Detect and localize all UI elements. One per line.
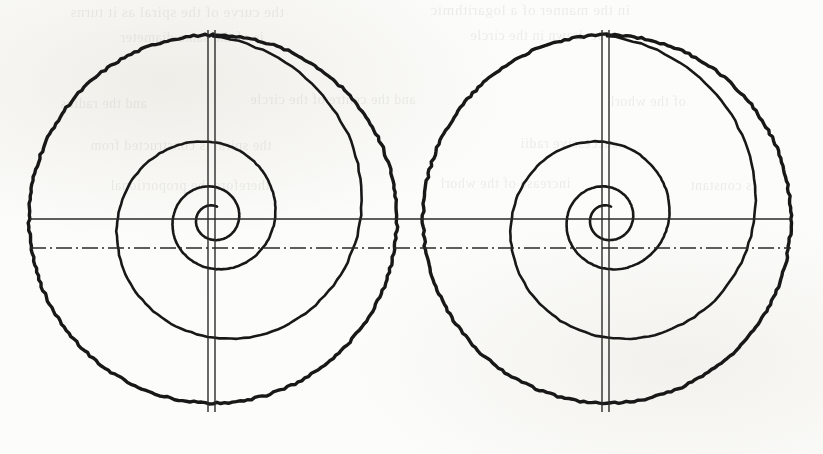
spiral-curve [116, 36, 361, 338]
spiral-diagram-figure [0, 0, 823, 454]
vertical-construction-pair [602, 30, 609, 412]
vertical-construction-pair [208, 30, 215, 412]
scanned-page: the curve of the spiral as it turnsin th… [0, 0, 823, 454]
spiral-curve [510, 36, 756, 339]
